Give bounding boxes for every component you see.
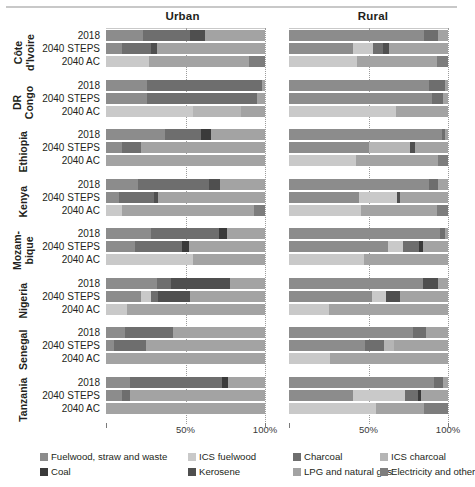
legend-item-electricity[interactable]: Electricity and other xyxy=(380,466,475,477)
bar-segment-lpg xyxy=(376,403,424,414)
chart-legend: Fuelwood, straw and wasteICS fuelwoodCha… xyxy=(40,450,460,484)
stacked-bar xyxy=(289,56,448,67)
legend-label: Kerosene xyxy=(199,466,240,477)
stacked-bar xyxy=(289,254,448,265)
bar-group xyxy=(289,177,448,227)
bar-segment-charcoal xyxy=(151,228,219,239)
bar-segment-charcoal xyxy=(157,278,171,289)
stacked-bar xyxy=(289,228,448,239)
bar-segment-lpg xyxy=(389,43,448,54)
stacked-bar xyxy=(106,93,265,104)
legend-item-ics_charcoal[interactable]: ICS charcoal xyxy=(380,451,446,462)
bar-segment-kerosene xyxy=(158,291,190,302)
bar-segment-lpg xyxy=(211,129,265,140)
stacked-bar xyxy=(106,192,265,203)
bar-segment-fuelwood xyxy=(106,327,125,338)
bar-segment-lpg xyxy=(443,93,448,104)
bar-segment-charcoal xyxy=(429,80,445,91)
bar-segment-lpg xyxy=(400,291,448,302)
bar-segment-lpg xyxy=(330,353,448,364)
stacked-bar xyxy=(106,142,265,153)
bar-segment-lpg xyxy=(364,254,448,265)
bar-segment-ics_fuelwood xyxy=(388,241,404,252)
bar-segment-fuelwood xyxy=(289,291,372,302)
bar-segment-fuelwood xyxy=(106,129,165,140)
bar-segment-charcoal xyxy=(122,43,151,54)
bar-segment-charcoal xyxy=(135,241,183,252)
stacked-bar xyxy=(289,353,448,364)
bar-segment-kerosene xyxy=(386,291,400,302)
bar-segment-lpg xyxy=(438,179,448,190)
country-group: Mozam- bique20182040 STEPS2040 AC xyxy=(0,226,104,276)
bar-segment-charcoal xyxy=(373,43,383,54)
bar-segment-lpg xyxy=(415,142,448,153)
panel-title-rural: Rural xyxy=(283,10,463,22)
legend-item-kerosene[interactable]: Kerosene xyxy=(188,466,240,477)
legend-item-coal[interactable]: Coal xyxy=(40,466,71,477)
chart-panel-rural xyxy=(289,28,448,424)
stacked-bar xyxy=(289,43,448,54)
bar-segment-charcoal xyxy=(147,93,257,104)
panel-titles: Urban Rural xyxy=(0,10,463,28)
bar-segment-ics_charcoal xyxy=(193,106,241,117)
stacked-bar xyxy=(289,179,448,190)
bar-group xyxy=(106,127,265,177)
bar-group xyxy=(289,28,448,78)
bar-segment-lpg xyxy=(158,192,265,203)
x-axis-rural: 50%100% xyxy=(289,424,448,440)
stacked-bar xyxy=(106,327,265,338)
bar-segment-charcoal xyxy=(147,80,261,91)
legend-item-ics_fuelwood[interactable]: ICS fuelwood xyxy=(188,451,256,462)
bar-segment-lpg xyxy=(146,340,265,351)
bar-group xyxy=(289,226,448,276)
bar-segment-ics_charcoal xyxy=(384,340,394,351)
legend-swatch-icon xyxy=(293,453,301,461)
legend-item-lpg[interactable]: LPG and natural gas xyxy=(293,466,392,477)
bar-segment-lpg xyxy=(445,129,448,140)
bar-segment-fuelwood xyxy=(106,43,122,54)
stacked-bar xyxy=(289,142,448,153)
scenario-label: 2018 xyxy=(26,30,100,41)
country-group: Ethiopia20182040 STEPS2040 AC xyxy=(0,127,104,177)
scenario-label: 2040 STEPS xyxy=(26,340,100,351)
bar-segment-fuelwood xyxy=(289,43,353,54)
bar-segment-coal xyxy=(201,129,211,140)
country-group: Côte d'Ivoire20182040 STEPS2040 AC xyxy=(0,28,104,78)
bar-segment-charcoal xyxy=(429,179,439,190)
country-group: Tanzania20182040 STEPS2040 AC xyxy=(0,375,104,425)
scenario-label: 2018 xyxy=(26,179,100,190)
stacked-bar xyxy=(106,56,265,67)
bar-segment-lpg xyxy=(141,142,265,153)
bar-segment-fuelwood xyxy=(289,241,388,252)
stacked-bar xyxy=(289,155,448,166)
legend-swatch-icon xyxy=(380,453,388,461)
bar-segment-charcoal xyxy=(434,377,444,388)
bar-segment-fuelwood xyxy=(289,30,424,41)
bar-segment-lpg xyxy=(227,228,265,239)
scenario-label: 2018 xyxy=(26,228,100,239)
bar-segment-ics_fuelwood xyxy=(289,353,330,364)
scenario-label: 2018 xyxy=(26,327,100,338)
bar-segment-fuelwood xyxy=(106,228,151,239)
bar-segment-charcoal xyxy=(405,390,418,401)
bar-segment-lpg xyxy=(445,80,448,91)
axis-cap xyxy=(289,423,290,428)
bar-segment-fuelwood xyxy=(289,228,440,239)
bar-segment-fuelwood xyxy=(289,192,359,203)
bar-segment-ics_fuelwood xyxy=(106,254,193,265)
stacked-bar xyxy=(106,353,265,364)
axis-cap xyxy=(265,423,266,428)
bar-segment-fuelwood xyxy=(289,340,365,351)
scenario-label: 2040 AC xyxy=(26,403,100,414)
gridline xyxy=(265,28,266,424)
axis-cap xyxy=(106,423,107,428)
country-group: Senegal20182040 STEPS2040 AC xyxy=(0,325,104,375)
legend-item-charcoal[interactable]: Charcoal xyxy=(293,451,342,462)
top-rule xyxy=(6,6,457,8)
scenario-label: 2040 AC xyxy=(26,254,100,265)
bar-segment-ics_charcoal xyxy=(369,142,410,153)
bar-segment-fuelwood xyxy=(289,390,353,401)
legend-item-fuelwood[interactable]: Fuelwood, straw and waste xyxy=(40,451,167,462)
scenario-label: 2040 STEPS xyxy=(26,142,100,153)
scenario-label: 2040 STEPS xyxy=(26,291,100,302)
